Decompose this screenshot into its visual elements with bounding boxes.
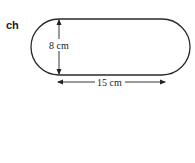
length-label: 15 cm — [97, 77, 122, 88]
stadium-diagram: 8 cm 15 cm — [0, 0, 195, 163]
height-label: 8 cm — [49, 40, 69, 51]
